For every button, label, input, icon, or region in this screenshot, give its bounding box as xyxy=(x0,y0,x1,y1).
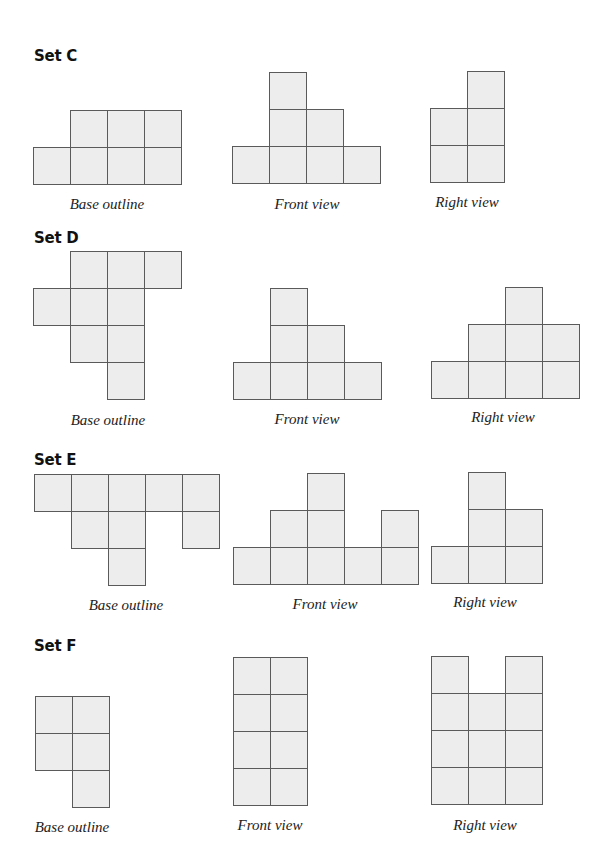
grid-cell xyxy=(70,325,108,363)
grid-cell xyxy=(70,288,108,326)
grid-cell xyxy=(431,693,469,731)
grid-cell xyxy=(72,733,110,771)
set-title: Set F xyxy=(34,637,76,655)
grid-cell xyxy=(35,696,73,734)
grid-cell xyxy=(306,109,344,147)
grid-cell xyxy=(72,696,110,734)
grid-cell xyxy=(71,511,109,549)
grid-cell xyxy=(233,768,271,806)
right-view-caption: Right view xyxy=(453,594,517,611)
set-title: Set E xyxy=(34,451,76,469)
grid-cell xyxy=(107,147,145,185)
grid-cell xyxy=(468,324,506,362)
grid-cell xyxy=(467,145,505,183)
grid-cell xyxy=(468,693,506,731)
grid-cell xyxy=(270,510,308,548)
grid-cell xyxy=(33,147,71,185)
grid-cell xyxy=(468,361,506,399)
set-title: Set C xyxy=(34,47,77,65)
grid-cell xyxy=(232,146,270,184)
grid-cell xyxy=(108,474,146,512)
grid-cell xyxy=(381,510,419,548)
grid-cell xyxy=(107,251,145,289)
grid-cell xyxy=(505,546,543,584)
grid-cell xyxy=(468,472,506,510)
base-outline-caption: Base outline xyxy=(70,196,145,213)
grid-cell xyxy=(233,731,271,769)
grid-cell xyxy=(505,509,543,547)
right-view-caption: Right view xyxy=(435,194,499,211)
grid-cell xyxy=(144,110,182,148)
grid-cell xyxy=(270,731,308,769)
grid-cell xyxy=(233,547,271,585)
base-outline-caption: Base outline xyxy=(35,819,110,836)
grid-cell xyxy=(505,287,543,325)
grid-cell xyxy=(307,510,345,548)
grid-cell xyxy=(505,361,543,399)
grid-cell xyxy=(542,324,580,362)
front-view-caption: Front view xyxy=(238,817,303,834)
grid-cell xyxy=(505,767,543,805)
front-view-caption: Front view xyxy=(275,196,340,213)
grid-cell xyxy=(108,511,146,549)
grid-cell xyxy=(468,767,506,805)
grid-cell xyxy=(233,362,271,400)
grid-cell xyxy=(233,657,271,695)
grid-cell xyxy=(70,147,108,185)
grid-cell xyxy=(107,325,145,363)
grid-cell xyxy=(182,474,220,512)
grid-cell xyxy=(431,361,469,399)
grid-cell xyxy=(107,362,145,400)
grid-cell xyxy=(307,547,345,585)
grid-cell xyxy=(431,546,469,584)
grid-cell xyxy=(233,694,271,732)
grid-cell xyxy=(307,325,345,363)
grid-cell xyxy=(144,251,182,289)
grid-cell xyxy=(505,693,543,731)
grid-cell xyxy=(381,547,419,585)
grid-cell xyxy=(542,361,580,399)
grid-cell xyxy=(270,362,308,400)
grid-cell xyxy=(34,474,72,512)
grid-cell xyxy=(431,656,469,694)
grid-cell xyxy=(467,108,505,146)
right-view-caption: Right view xyxy=(471,409,535,426)
grid-cell xyxy=(344,547,382,585)
grid-cell xyxy=(343,146,381,184)
right-view-caption: Right view xyxy=(453,817,517,834)
grid-cell xyxy=(108,548,146,586)
grid-cell xyxy=(144,147,182,185)
grid-cell xyxy=(468,730,506,768)
grid-cell xyxy=(468,546,506,584)
grid-cell xyxy=(270,288,308,326)
grid-cell xyxy=(430,108,468,146)
grid-cell xyxy=(72,770,110,808)
grid-cell xyxy=(430,145,468,183)
grid-cell xyxy=(270,325,308,363)
grid-cell xyxy=(344,362,382,400)
grid-cell xyxy=(505,656,543,694)
grid-cell xyxy=(33,288,71,326)
grid-cell xyxy=(468,509,506,547)
grid-cell xyxy=(107,288,145,326)
grid-cell xyxy=(270,547,308,585)
front-view-caption: Front view xyxy=(275,411,340,428)
grid-cell xyxy=(70,251,108,289)
grid-cell xyxy=(107,110,145,148)
grid-cell xyxy=(431,767,469,805)
grid-cell xyxy=(182,511,220,549)
grid-cell xyxy=(270,657,308,695)
grid-cell xyxy=(35,733,73,771)
grid-cell xyxy=(307,473,345,511)
grid-cell xyxy=(505,730,543,768)
grid-cell xyxy=(431,730,469,768)
set-title: Set D xyxy=(34,229,78,247)
grid-cell xyxy=(70,110,108,148)
base-outline-caption: Base outline xyxy=(89,597,164,614)
grid-cell xyxy=(306,146,344,184)
front-view-caption: Front view xyxy=(293,596,358,613)
grid-cell xyxy=(505,324,543,362)
grid-cell xyxy=(467,71,505,109)
grid-cell xyxy=(269,146,307,184)
grid-cell xyxy=(307,362,345,400)
